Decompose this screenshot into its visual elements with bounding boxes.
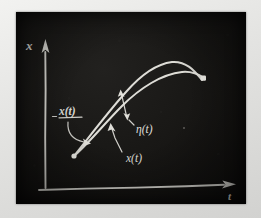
varied-path-leader-line xyxy=(68,122,84,142)
true-path-leader-line xyxy=(112,129,122,152)
eta-leader-line xyxy=(129,120,134,125)
leader-lines-group xyxy=(53,117,135,153)
variation-label: η(t) xyxy=(136,123,153,136)
screenshot-root: x t x(t) η(t) x(t) xyxy=(0,0,261,218)
trajectory-curves-group xyxy=(71,62,206,159)
chalkboard-panel: x t x(t) η(t) x(t) xyxy=(16,12,246,204)
true-path-leader-arrowhead xyxy=(108,123,116,131)
vertical-axis-arrowhead xyxy=(42,39,50,53)
diagram-canvas: x t x(t) η(t) x(t) xyxy=(16,12,246,204)
chalk-speck xyxy=(183,127,185,129)
y-axis-label: x xyxy=(25,38,33,53)
horizontal-axis-line xyxy=(39,185,224,190)
varied-path-label-underline xyxy=(59,117,82,118)
x-axis-label: t xyxy=(228,190,232,202)
varied-path-label: x(t) xyxy=(58,105,76,118)
varied-path-curve xyxy=(74,62,202,156)
start-point-dot xyxy=(71,153,76,158)
eta-arrowhead-down xyxy=(123,113,130,121)
true-path-curve xyxy=(74,72,204,156)
true-path-label: x(t) xyxy=(125,152,142,165)
end-point-dot xyxy=(201,75,206,80)
